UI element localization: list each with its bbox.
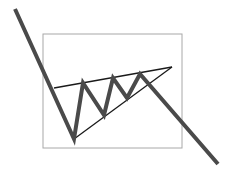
price-line <box>15 9 218 164</box>
rising-wedge-diagram <box>0 0 227 171</box>
lower-trendline <box>74 67 172 139</box>
chart-frame <box>43 34 182 148</box>
